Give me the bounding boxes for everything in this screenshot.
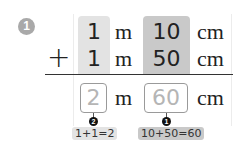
m-step-calculation: 1+1=2 [72, 127, 117, 140]
sum-line [45, 74, 233, 75]
row1-m-unit: m [115, 20, 132, 44]
m-step-marker: 2 [89, 117, 98, 126]
cm-step-marker: 1 [162, 117, 171, 126]
table-right-border [231, 14, 232, 126]
row2-cm-unit: cm [197, 47, 224, 71]
plus-operator: + [47, 44, 70, 72]
row1-cm-unit: cm [197, 20, 224, 44]
row2-m-value: 1 [78, 47, 110, 71]
row1-cm-value: 10 [143, 20, 190, 44]
answer-m-box: 2 [80, 83, 107, 113]
answer-cm-unit: cm [197, 86, 224, 110]
answer-m-unit: m [115, 86, 132, 110]
table-left-border [73, 14, 74, 126]
row2-cm-value: 50 [143, 47, 190, 71]
problem-number-badge: 1 [18, 18, 35, 35]
row2-m-unit: m [115, 47, 132, 71]
answer-cm-box: 60 [144, 83, 188, 113]
cm-step-calculation: 10+50=60 [138, 127, 204, 140]
row1-m-value: 1 [78, 20, 110, 44]
